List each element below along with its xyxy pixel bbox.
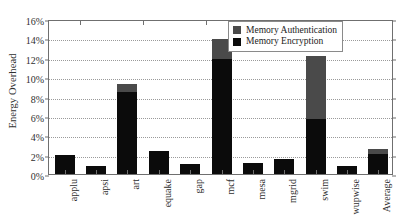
x-tick-mark: [96, 170, 97, 174]
y-tick-mark: [45, 176, 49, 177]
y-tick-mark-right: [392, 40, 396, 41]
legend-item: Memory Encryption: [233, 36, 337, 47]
bar-group: [117, 84, 137, 174]
y-tick-label: 10%: [26, 74, 44, 85]
y-tick-label: 6%: [31, 112, 44, 123]
x-tick-mark: [284, 170, 285, 174]
x-tick-label: mesa: [256, 179, 267, 200]
x-tick-mark: [316, 170, 317, 174]
y-tick-mark-right: [392, 59, 396, 60]
y-tick-label: 0%: [31, 171, 44, 182]
x-tick-label: equake: [162, 179, 173, 207]
y-tick-label: 2%: [31, 151, 44, 162]
bar-segment-memory-encryption: [117, 92, 137, 174]
x-tick-label: gap: [193, 179, 204, 193]
x-tick-mark: [190, 170, 191, 174]
chart-legend: Memory AuthenticationMemory Encryption: [228, 21, 343, 52]
x-tick-label: Average: [381, 179, 392, 212]
y-tick-mark-right: [392, 137, 396, 138]
bar-segment-memory-authentication: [306, 56, 326, 119]
y-tick-label: 4%: [31, 132, 44, 143]
x-tick-label: art: [130, 179, 141, 190]
legend-label: Memory Authentication: [246, 25, 337, 36]
x-tick-mark: [127, 170, 128, 174]
y-tick-label: 16%: [26, 16, 44, 27]
legend-swatch-icon: [233, 38, 241, 46]
bar-segment-memory-encryption: [212, 59, 232, 174]
y-tick-label: 8%: [31, 93, 44, 104]
x-tick-mark: [253, 170, 254, 174]
legend-swatch-icon: [233, 26, 241, 34]
bar-segment-memory-encryption: [306, 119, 326, 174]
bar-segment-memory-authentication: [368, 149, 388, 154]
x-tick-label: apsi: [99, 179, 110, 195]
bar-group: [212, 39, 232, 174]
x-tick-label: mcf: [225, 179, 236, 195]
x-tick-mark: [378, 170, 379, 174]
x-tick-label: swim: [319, 179, 330, 201]
legend-label: Memory Encryption: [246, 36, 323, 47]
legend-item: Memory Authentication: [233, 25, 337, 36]
energy-overhead-bar-chart: Energy Overhead 0%2%4%6%8%10%12%14%16% a…: [0, 0, 419, 224]
bar-group: [306, 56, 326, 174]
y-tick-mark-right: [392, 156, 396, 157]
y-tick-mark-right: [392, 21, 396, 22]
y-tick-label: 12%: [26, 54, 44, 65]
x-tick-mark: [65, 170, 66, 174]
x-tick-mark: [347, 170, 348, 174]
x-tick-mark: [159, 170, 160, 174]
x-tick-label: mgrid: [287, 179, 298, 203]
bar-segment-memory-authentication: [117, 84, 137, 92]
y-tick-mark-right: [392, 79, 396, 80]
y-tick-label: 14%: [26, 35, 44, 46]
y-axis-title: Energy Overhead: [4, 6, 22, 176]
x-tick-label: wupwise: [350, 179, 361, 215]
y-tick-mark-right: [392, 117, 396, 118]
y-tick-mark-right: [392, 176, 396, 177]
x-tick-label: applu: [68, 179, 79, 201]
y-tick-mark-right: [392, 98, 396, 99]
x-tick-mark: [222, 170, 223, 174]
